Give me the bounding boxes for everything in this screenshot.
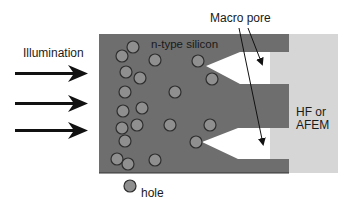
- electrolyte-label-line1: HF or: [296, 106, 326, 118]
- hole-legend-icon: [124, 180, 136, 192]
- hole-icon: [149, 54, 161, 66]
- hole-icon: [119, 86, 131, 98]
- silicon-label: n-type silicon: [151, 39, 218, 51]
- hole-legend-label: hole: [141, 187, 164, 199]
- hole-icon: [136, 102, 148, 114]
- hole-icon: [119, 135, 131, 147]
- hole-icon: [116, 50, 128, 62]
- illumination-label: Illumination: [23, 47, 84, 59]
- electrolyte-label-line2: AFEM: [296, 119, 329, 131]
- hole-icon: [204, 119, 216, 131]
- hole-icon: [111, 153, 123, 165]
- hole-icon: [190, 136, 202, 148]
- illumination-arrows: [15, 65, 88, 139]
- hole-icon: [120, 66, 132, 78]
- hole-icon: [116, 122, 128, 134]
- hole-icon: [206, 73, 218, 85]
- hole-icon: [122, 158, 134, 170]
- hole-icon: [131, 119, 143, 131]
- macropore-diagram: [0, 0, 350, 208]
- hole-icon: [117, 105, 129, 117]
- hole-icon: [192, 55, 204, 67]
- macro-pore-label: Macro pore: [210, 12, 271, 24]
- hole-icon: [149, 154, 161, 166]
- hole-icon: [164, 119, 176, 131]
- hole-icon: [169, 86, 181, 98]
- hole-icon: [127, 41, 139, 53]
- hole-icon: [134, 72, 146, 84]
